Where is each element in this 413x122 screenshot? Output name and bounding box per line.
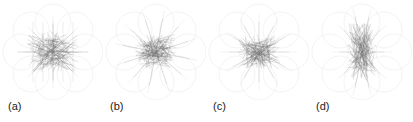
panel-label-c: (c): [213, 100, 226, 112]
panel-label-d: (d): [316, 100, 329, 112]
graph-layout-d: [309, 0, 412, 100]
panel-label-b: (b): [110, 100, 123, 112]
panel-a: (a): [0, 0, 103, 122]
panel-label-a: (a): [8, 100, 21, 112]
panel-c: (c): [206, 0, 309, 122]
graph-layout-a: [0, 0, 103, 100]
graph-layout-b: [103, 0, 206, 100]
graph-layout-c: [206, 0, 309, 100]
panel-d: (d): [309, 0, 412, 122]
panel-b: (b): [103, 0, 206, 122]
